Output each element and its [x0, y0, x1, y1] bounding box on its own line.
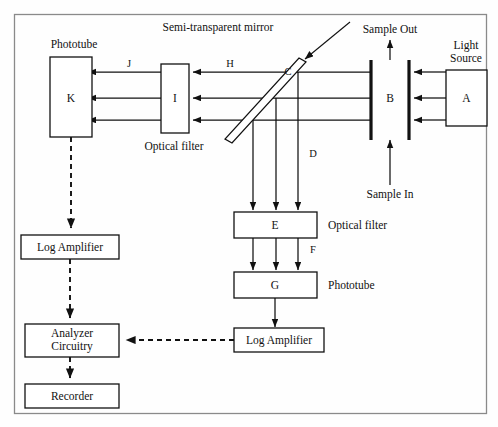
beam-label-D: D [309, 148, 317, 159]
analyzer-circuitry-label-line1: Analyzer [51, 327, 93, 340]
component-label-E: E [271, 219, 278, 231]
component-label-K: K [67, 92, 76, 104]
component-label-A: A [462, 92, 471, 104]
optical-filter-right-caption: Optical filter [328, 219, 387, 232]
analyzer-circuitry-label-line2: Circuitry [51, 340, 93, 353]
figure-canvas: A Light Source B Sample Out Sample In H … [0, 0, 498, 427]
phototube-right-caption: Phototube [328, 279, 375, 291]
phototube-left-caption: Phototube [51, 38, 98, 50]
component-label-G: G [271, 279, 279, 291]
light-source-caption-line2: Source [450, 52, 482, 64]
beam-label-F: F [310, 244, 316, 255]
component-box-C [225, 58, 306, 143]
component-label-C: C [284, 66, 291, 77]
beam-label-H: H [226, 58, 234, 69]
mirror-callout-arrow [305, 22, 350, 59]
sample-in-label: Sample In [367, 188, 414, 201]
light-source-caption-line1: Light [454, 39, 480, 52]
sample-out-label: Sample Out [363, 23, 418, 36]
recorder-label: Recorder [51, 390, 93, 402]
semi-transparent-mirror-label: Semi-transparent mirror [163, 21, 274, 34]
log-amplifier-right-label: Log Amplifier [246, 334, 312, 347]
component-label-I: I [173, 92, 177, 104]
log-amplifier-left-label: Log Amplifier [37, 241, 103, 254]
optical-filter-left-caption: Optical filter [144, 140, 203, 153]
spectrophotometer-diagram: A Light Source B Sample Out Sample In H … [0, 0, 498, 427]
beam-label-J: J [127, 58, 131, 69]
component-label-B: B [386, 92, 394, 104]
